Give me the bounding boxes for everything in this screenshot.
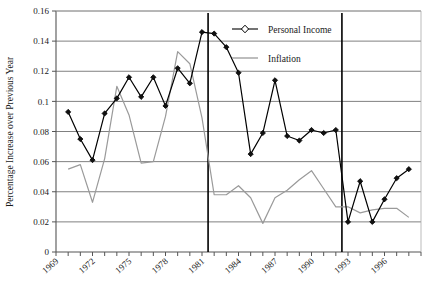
- y-tick-label: 0: [45, 247, 50, 257]
- y-tick-label: 0.12: [33, 66, 49, 76]
- y-tick-labels: 00.020.040.060.080.10.120.140.16: [33, 6, 49, 257]
- legend-label-inflation: Inflation: [268, 54, 301, 64]
- y-tick-label: 0.06: [33, 157, 49, 167]
- y-tick-label: 0.14: [33, 36, 49, 46]
- y-tick-label: 0.04: [33, 187, 49, 197]
- y-axis-title: Percentage Increase over Previous Year: [5, 56, 15, 207]
- y-tick-label: 0.16: [33, 6, 49, 16]
- line-chart: 00.020.040.060.080.10.120.140.16 1969197…: [0, 0, 428, 297]
- chart-container: 00.020.040.060.080.10.120.140.16 1969197…: [0, 0, 428, 297]
- legend-label-personal-income: Personal Income: [268, 25, 332, 35]
- y-tick-label: 0.08: [33, 127, 49, 137]
- y-tick-label: 0.02: [33, 217, 49, 227]
- y-tick-label: 0.1: [38, 97, 49, 107]
